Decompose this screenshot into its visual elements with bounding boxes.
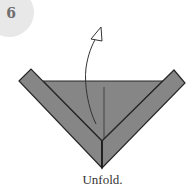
diagram-stage: 6 Unfold. bbox=[0, 0, 192, 190]
fold-diagram bbox=[0, 0, 192, 190]
step-caption: Unfold. bbox=[0, 172, 192, 188]
arrowhead-icon bbox=[91, 27, 102, 41]
